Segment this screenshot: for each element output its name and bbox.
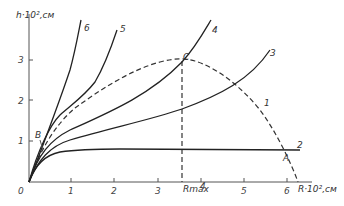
curve-label-6: 6 [84,23,90,33]
rmax-label: Rmax [183,184,210,194]
curve-3 [29,50,270,182]
x-tick-2: 2 [111,186,117,196]
point-C-label: C [183,52,190,62]
curve-label-1: 1 [264,98,270,108]
chart: 0 1 2 3 4 5 6 1 2 3 h·10²,см R·10²,см 6 … [0,0,344,206]
x-axis-title: R·10²,см [298,184,337,194]
point-A-label: A [282,153,289,163]
curve-1 [29,59,298,182]
y-ticks [29,60,33,141]
y-axis-title: h·10²,см [16,10,54,20]
curve-label-2: 2 [297,140,303,150]
curve-4 [29,20,211,182]
curve-label-4: 4 [212,25,218,35]
y-tick-2: 2 [18,96,24,106]
origin-label: 0 [18,186,24,196]
curve-label-5: 5 [120,24,126,34]
curve-2 [29,149,300,182]
x-tick-3: 3 [155,186,161,196]
y-tick-3: 3 [18,55,24,65]
y-tick-1: 1 [18,136,24,146]
x-tick-6: 6 [284,186,290,196]
x-tick-5: 5 [241,186,247,196]
x-ticks [71,178,287,182]
point-B-label: B [35,130,41,140]
x-tick-1: 1 [68,186,74,196]
curve-label-3: 3 [270,48,276,58]
